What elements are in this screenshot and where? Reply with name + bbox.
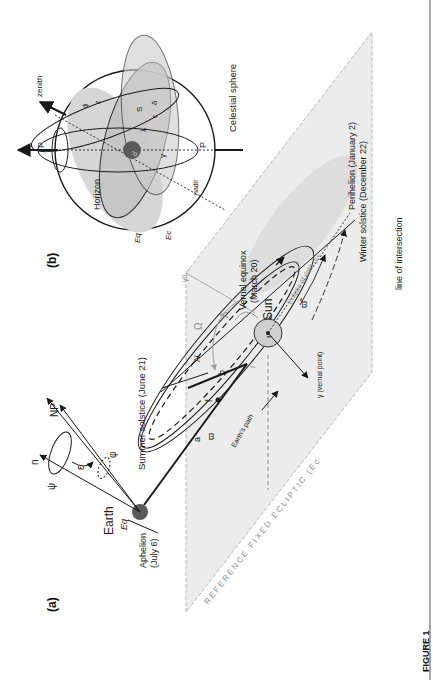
lambda-label: Λ xyxy=(219,311,230,318)
lambda-b-label: λ xyxy=(139,128,148,132)
pn-label: P xyxy=(36,142,46,148)
phi-b-label: ϕ xyxy=(80,103,89,108)
line-of-intersection-label: line of intersection xyxy=(394,217,404,290)
epsilon-b-label: ε xyxy=(151,115,158,118)
observer-label: o' xyxy=(131,151,138,156)
zenith-label: zenith xyxy=(35,76,44,97)
s-label: S xyxy=(135,107,144,112)
omega-label: Ω xyxy=(193,322,204,330)
aphelion-date: (July 6) xyxy=(149,538,159,568)
eq-t-label: Eq xyxy=(119,519,129,530)
reference-fixed-ecliptic-plane xyxy=(186,32,372,612)
phi-label: φ xyxy=(107,451,118,458)
horizon-label: Horizon xyxy=(92,179,102,210)
celestial-sphere-title: Celestial sphere xyxy=(227,64,238,132)
eq-label: Eq xyxy=(133,233,142,243)
node-n-label: N xyxy=(192,355,202,362)
varpi-label: ϖ xyxy=(206,433,216,440)
nadir-label: nadir xyxy=(192,179,199,195)
delta-label: δ xyxy=(150,100,159,105)
sun-label: Sun xyxy=(261,299,275,320)
summer-solstice-label: Summer solstice (June 21) xyxy=(136,357,147,470)
a-label: a xyxy=(192,437,202,442)
epsilon-label: ε xyxy=(75,465,86,470)
vernal-point-label: γ (vernal point) xyxy=(316,352,324,398)
vernal-equinox-date: (March 20) xyxy=(249,259,259,303)
panel-b-label: (b) xyxy=(45,253,59,268)
np-label: NP xyxy=(49,403,60,417)
aphelion-label: Aphelion xyxy=(138,533,148,568)
figure-caption: FIGURE 1 xyxy=(421,630,431,672)
figure-canvas: FIGURE 1 (a) (b) Earth Eq Aphelion (July… xyxy=(0,0,433,680)
gamma0-label: γ0 xyxy=(181,275,189,283)
ec-label: Ec xyxy=(164,231,173,240)
focus-f1 xyxy=(216,398,221,403)
psi-label: ψ xyxy=(46,483,57,490)
earth-label: Earth xyxy=(102,506,116,535)
zenith-arrow xyxy=(40,102,66,115)
gamma-b-label: γ xyxy=(158,154,167,158)
winter-solstice-label: Winter solstice (December 22) xyxy=(358,141,368,262)
vernal-equinox-label: Vernal equinox xyxy=(238,250,248,310)
ps-label: P xyxy=(198,142,208,148)
z-label: z xyxy=(94,100,101,104)
b-label: b xyxy=(217,370,227,375)
n-label: n xyxy=(29,459,40,465)
celestial-sphere xyxy=(26,33,225,247)
panel-a-label: (a) xyxy=(45,597,59,612)
perihelion-label: Perihelion (January 2) xyxy=(347,122,357,210)
